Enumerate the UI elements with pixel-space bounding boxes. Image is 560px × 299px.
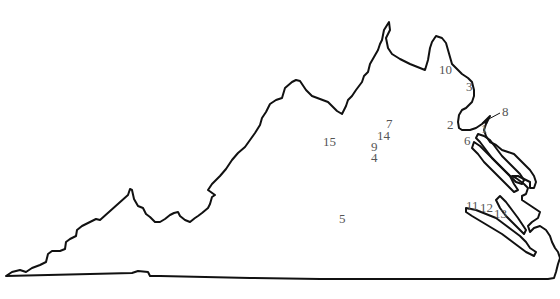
map-label-11: 11 (466, 198, 479, 213)
virginia-map: 1 2 3 4 5 6 7 8 9 10 11 12 13 14 15 (0, 0, 560, 299)
map-label-6: 6 (464, 133, 471, 148)
map-label-15: 15 (323, 134, 336, 149)
map-label-1: 1 (481, 121, 488, 136)
map-label-14: 14 (377, 128, 391, 143)
map-label-5: 5 (339, 211, 346, 226)
map-label-2: 2 (447, 117, 454, 132)
map-label-3: 3 (466, 79, 473, 94)
map-label-13: 13 (494, 206, 507, 221)
map-label-12: 12 (480, 200, 493, 215)
state-outline (6, 22, 560, 279)
map-label-8: 8 (502, 104, 509, 119)
map-label-10: 10 (439, 62, 452, 77)
